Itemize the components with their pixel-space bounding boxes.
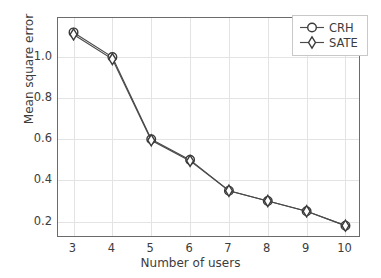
x-tick-label-9: 9 — [302, 241, 309, 255]
chart-legend: CRHSATE — [292, 15, 368, 56]
line-sate — [74, 34, 346, 225]
legend-marker-circle-icon — [298, 20, 326, 35]
y-tick-label-1.0: 1.0 — [34, 49, 52, 63]
x-tick-label-8: 8 — [263, 241, 270, 255]
x-tick-label-10: 10 — [337, 241, 352, 255]
y-tick-label-0.2: 0.2 — [34, 214, 52, 228]
series-sate — [70, 29, 349, 231]
legend-item-crh[interactable]: CRH — [298, 20, 362, 35]
legend-marker-diamond-icon — [298, 35, 326, 50]
y-tick-label-0.4: 0.4 — [34, 172, 52, 186]
x-tick-label-5: 5 — [147, 241, 154, 255]
legend-label-sate: SATE — [326, 36, 358, 50]
legend-glyph-sate — [309, 37, 316, 48]
y-axis-title: Mean square error — [22, 0, 36, 154]
x-tick-label-7: 7 — [224, 241, 231, 255]
x-tick-label-3: 3 — [69, 241, 76, 255]
chart-figure: 0.20.40.60.81.0 345678910 Number of user… — [0, 0, 381, 278]
y-tick-label-0.8: 0.8 — [34, 90, 52, 104]
x-tick-label-4: 4 — [108, 241, 115, 255]
y-tick-label-0.6: 0.6 — [34, 131, 52, 145]
legend-label-crh: CRH — [326, 21, 354, 35]
x-axis-tick-labels: 345678910 — [0, 241, 381, 257]
legend-item-sate[interactable]: SATE — [298, 35, 362, 50]
legend-glyph-crh — [308, 23, 317, 32]
x-axis-title: Number of users — [0, 256, 381, 270]
x-tick-label-6: 6 — [185, 241, 192, 255]
